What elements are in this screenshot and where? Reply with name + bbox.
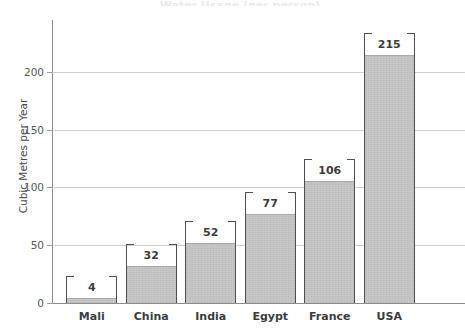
bar-chart: Water Usage (per person) Cubic Metres pe… xyxy=(0,0,465,332)
bar-value-india: 52 xyxy=(185,227,236,238)
bar-china[interactable]: 32 xyxy=(126,240,177,303)
y-tick-label-50: 50 xyxy=(0,240,44,250)
caliper-left-usa xyxy=(364,33,372,303)
caliper-right-france xyxy=(347,159,355,303)
y-tick-mark-50 xyxy=(47,245,53,246)
bar-value-mali: 4 xyxy=(66,282,117,293)
y-tick-mark-150 xyxy=(47,130,53,131)
bar-mali[interactable]: 4 xyxy=(66,272,117,303)
x-axis-line xyxy=(52,303,465,304)
bar-egypt[interactable]: 77 xyxy=(245,188,296,303)
x-tick-label-france: France xyxy=(300,311,360,323)
x-tick-label-egypt: Egypt xyxy=(241,311,301,323)
bar-value-france: 106 xyxy=(304,165,355,176)
x-tick-label-china: China xyxy=(122,311,182,323)
bar-india[interactable]: 52 xyxy=(185,217,236,303)
y-tick-mark-200 xyxy=(47,72,53,73)
y-tick-label-150: 150 xyxy=(0,125,44,135)
bar-value-usa: 215 xyxy=(364,39,415,50)
caliper-right-usa xyxy=(407,33,415,303)
chart-title-cropped: Water Usage (per person) xyxy=(150,0,330,6)
y-tick-mark-0 xyxy=(47,303,53,304)
y-tick-label-200: 200 xyxy=(0,67,44,77)
y-axis-title: Cubic Metres per Year xyxy=(17,71,29,241)
bar-france[interactable]: 106 xyxy=(304,155,355,303)
y-tick-label-0: 0 xyxy=(0,298,44,308)
caliper-left-france xyxy=(304,159,312,303)
y-axis-line xyxy=(52,20,53,303)
y-tick-mark-100 xyxy=(47,187,53,188)
bar-value-egypt: 77 xyxy=(245,198,296,209)
x-tick-label-india: India xyxy=(181,311,241,323)
bar-value-china: 32 xyxy=(126,250,177,261)
bar-usa[interactable]: 215 xyxy=(364,29,415,303)
y-tick-label-100: 100 xyxy=(0,182,44,192)
x-tick-label-mali: Mali xyxy=(62,311,122,323)
x-tick-label-usa: USA xyxy=(360,311,420,323)
